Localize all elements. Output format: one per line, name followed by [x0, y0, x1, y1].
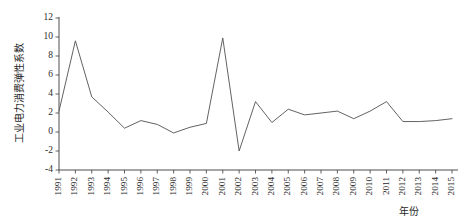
- x-tick-label: 2011: [381, 177, 391, 195]
- x-tick-label: 2006: [299, 177, 309, 196]
- y-tick-label: -2: [45, 145, 53, 155]
- x-tick-label: 2007: [315, 177, 325, 196]
- x-tick-label: 2002: [233, 177, 243, 196]
- data-series-group: [59, 38, 452, 151]
- y-tick-label: 6: [48, 69, 53, 79]
- x-tick-label: 2005: [282, 177, 292, 196]
- x-tick-label: 1993: [86, 177, 96, 196]
- x-tick-label: 1999: [184, 177, 194, 196]
- y-tick-labels: -4-2024681012: [44, 12, 54, 174]
- x-tick-label: 2000: [200, 177, 210, 196]
- y-tick-label: 10: [44, 31, 54, 41]
- x-tick-label: 2012: [397, 177, 407, 196]
- x-tick-label: 2003: [250, 177, 260, 196]
- data-series-line: [59, 38, 452, 151]
- x-tick-label: 1994: [102, 177, 112, 196]
- x-tick-label: 2015: [446, 177, 456, 196]
- y-tick-label: 4: [48, 88, 53, 98]
- y-tick-label: 12: [44, 12, 54, 22]
- y-tick-label: 0: [48, 126, 53, 136]
- x-tick-label: 1997: [151, 177, 161, 196]
- x-tick-label: 1996: [135, 177, 145, 196]
- x-tick-labels: 1991199219931994199519961997199819992000…: [53, 177, 456, 196]
- x-tick-label: 1995: [119, 177, 129, 196]
- chart-axes: [59, 17, 458, 170]
- y-axis-title: 工业电力消费弹性系数: [13, 43, 25, 143]
- chart-figure: -4-2024681012 19911992199319941995199619…: [0, 0, 476, 222]
- y-tick-label: 8: [48, 50, 53, 60]
- y-tick-marks: [56, 18, 60, 170]
- x-tick-label: 1992: [69, 177, 79, 196]
- x-tick-label: 2004: [266, 177, 276, 196]
- x-tick-label: 1991: [53, 177, 63, 196]
- y-tick-label: -4: [45, 164, 53, 174]
- x-axis-title: 年份: [399, 205, 419, 217]
- y-tick-label: 2: [48, 107, 53, 117]
- x-tick-label: 2013: [413, 177, 423, 196]
- x-tick-label: 2010: [364, 177, 374, 196]
- line-chart-canvas: -4-2024681012 19911992199319941995199619…: [0, 0, 476, 222]
- x-tick-label: 2014: [430, 177, 440, 196]
- x-tick-label: 1998: [168, 177, 178, 196]
- x-tick-label: 2001: [217, 177, 227, 196]
- x-tick-marks: [59, 170, 452, 174]
- x-tick-label: 2009: [348, 177, 358, 196]
- x-tick-label: 2008: [331, 177, 341, 196]
